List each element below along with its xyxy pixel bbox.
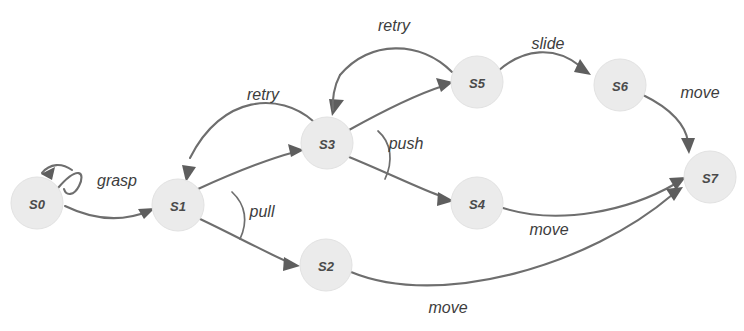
state-node-s6[interactable]: S6 <box>594 59 646 111</box>
state-node-s2[interactable]: S2 <box>300 239 352 291</box>
edge-s5-to-s6-arrowhead <box>574 59 591 75</box>
state-node-s4[interactable]: S4 <box>451 177 503 229</box>
state-node-s1[interactable]: S1 <box>152 179 204 231</box>
state-machine-diagram: S0 S1 S2 S3 S4 S5 <box>0 0 744 331</box>
edge-label-retry-s5-s3: retry <box>378 17 411 34</box>
edge-s2-to-s7-path <box>351 195 672 285</box>
edge-s1-to-s2-arrowhead <box>283 257 300 271</box>
edge-s1-to-s2-path <box>198 218 288 262</box>
edge-s5-to-s3-path <box>340 48 452 75</box>
state-node-s3-label: S3 <box>319 137 336 152</box>
edge-label-pull: pull <box>249 203 275 220</box>
edge-s3-to-s5-arrowhead <box>436 78 453 92</box>
state-node-s1-label: S1 <box>170 199 186 214</box>
state-node-s0[interactable]: S0 <box>11 177 63 229</box>
edge-s3-to-s1[interactable] <box>182 103 313 182</box>
brace-pull-at-s1 <box>232 192 245 239</box>
edge-s1-to-s3-path <box>198 152 295 189</box>
edge-label-slide: slide <box>532 35 565 52</box>
edge-s4-to-s7[interactable] <box>503 177 686 216</box>
edge-label-push: push <box>388 135 424 152</box>
edge-s3-to-s4[interactable] <box>349 157 454 206</box>
edge-label-retry-s3-s1: retry <box>247 86 280 103</box>
edge-s6-to-s7-arrowhead <box>681 138 695 154</box>
edge-s5-to-s3-arrowhead <box>329 99 344 116</box>
edge-label-grasp: grasp <box>97 172 137 189</box>
state-node-s7-label: S7 <box>702 171 719 186</box>
edge-s1-to-s3[interactable] <box>198 144 304 189</box>
brace-pull-arc <box>232 192 245 239</box>
state-node-s5-label: S5 <box>469 76 486 91</box>
edge-s5-to-s6[interactable] <box>498 52 591 75</box>
edge-s1-to-s2[interactable] <box>198 218 300 271</box>
edge-s6-to-s7-path <box>643 95 688 142</box>
edge-label-move-s2-s7: move <box>428 299 467 316</box>
state-node-s4-label: S4 <box>469 197 486 212</box>
state-node-s3[interactable]: S3 <box>301 117 353 169</box>
state-node-s2-label: S2 <box>318 259 335 274</box>
edge-s5-to-s6-path <box>498 52 580 71</box>
edge-s6-to-s7[interactable] <box>643 95 695 154</box>
state-node-s7[interactable]: S7 <box>684 151 736 203</box>
edge-s0-self-loop-path <box>58 173 81 194</box>
state-diagram-canvas: S0 S1 S2 S3 S4 S5 <box>0 0 744 331</box>
edge-s0-to-s1[interactable] <box>65 206 155 219</box>
edge-s5-to-s3[interactable] <box>329 48 452 116</box>
edge-s3-to-s4-path <box>349 157 443 197</box>
state-node-s5[interactable]: S5 <box>451 56 503 108</box>
edge-label-move-s4-s7: move <box>529 221 568 238</box>
edge-s4-to-s7-path <box>503 184 675 216</box>
edge-s3-to-s5[interactable] <box>349 78 453 130</box>
state-node-s0-label: S0 <box>29 197 46 212</box>
edge-label-move-s6-s7: move <box>680 84 719 101</box>
state-node-s6-label: S6 <box>612 79 629 94</box>
edge-s0-to-s1-path <box>65 206 149 218</box>
edge-s3-to-s5-path <box>349 86 443 130</box>
